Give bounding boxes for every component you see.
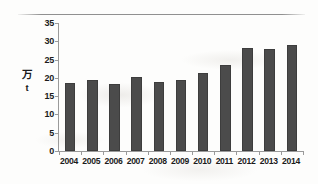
x-tick-label: 2013 (260, 156, 278, 166)
x-tick-label: 2007 (127, 156, 145, 166)
bar (154, 82, 165, 151)
y-tick-mark (55, 60, 59, 61)
bar (131, 77, 142, 151)
x-tick-label: 2011 (216, 156, 233, 166)
y-axis-tick-labels: 05101520253035 (34, 0, 54, 184)
y-tick-mark (55, 78, 59, 79)
x-tick-mark (192, 151, 193, 155)
bar (220, 65, 231, 151)
y-tick-mark (55, 114, 59, 115)
bar (198, 73, 209, 151)
x-tick-label: 2005 (82, 156, 100, 166)
x-tick-mark (81, 151, 82, 155)
x-tick-label: 2010 (193, 156, 211, 166)
y-tick-label: 20 (34, 73, 54, 83)
x-tick-mark (303, 151, 304, 155)
bar (287, 45, 298, 151)
x-tick-label: 2004 (60, 156, 78, 166)
y-tick-label: 30 (34, 36, 54, 46)
x-tick-mark (126, 151, 127, 155)
y-tick-label: 15 (34, 91, 54, 101)
x-tick-label: 2009 (171, 156, 189, 166)
x-tick-label: 2014 (282, 156, 300, 166)
x-tick-mark (170, 151, 171, 155)
bar (264, 49, 275, 151)
x-tick-mark (148, 151, 149, 155)
bar (87, 80, 98, 151)
bar (176, 80, 187, 151)
bar (109, 84, 120, 151)
x-tick-label: 2008 (149, 156, 167, 166)
y-tick-mark (55, 96, 59, 97)
x-tick-label: 2006 (104, 156, 122, 166)
y-tick-mark (55, 23, 59, 24)
x-axis-tick-labels: 2004200520062007200820092010201120122013… (58, 156, 303, 172)
x-tick-mark (281, 151, 282, 155)
x-tick-mark (214, 151, 215, 155)
x-tick-mark (103, 151, 104, 155)
x-tick-mark (259, 151, 260, 155)
x-tick-label: 2012 (238, 156, 256, 166)
bar (242, 48, 253, 151)
y-tick-label: 5 (34, 128, 54, 138)
y-tick-label: 25 (34, 55, 54, 65)
y-tick-mark (55, 41, 59, 42)
plot-area (58, 23, 303, 152)
y-tick-mark (55, 133, 59, 134)
y-tick-label: 35 (34, 18, 54, 28)
y-tick-label: 0 (34, 146, 54, 156)
bar (65, 83, 76, 151)
x-tick-mark (236, 151, 237, 155)
bar-chart: 万 t 05101520253035 200420052006200720082… (0, 0, 318, 184)
y-tick-label: 10 (34, 109, 54, 119)
x-tick-mark (59, 151, 60, 155)
